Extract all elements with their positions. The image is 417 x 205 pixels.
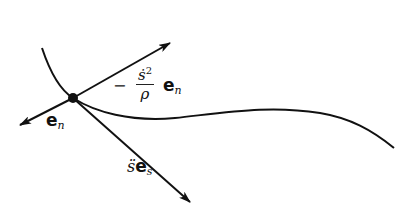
tangential-accel-label: s̈es (127, 156, 152, 176)
fraction-numerator: ṡ2 (138, 63, 152, 83)
unit-normal-label: en (46, 110, 65, 130)
fraction-denominator: ρ (141, 86, 150, 102)
normal-accel-fraction: ṡ2 ρ (136, 63, 154, 102)
normal-accel-vector-symbol: e (163, 75, 175, 95)
curve-path (42, 48, 394, 148)
diagram-svg (0, 0, 417, 205)
unit-normal-subscript: n (58, 119, 65, 132)
normal-accel-vector-subscript: n (175, 84, 182, 97)
tangential-accel-vector-symbol: e (135, 156, 147, 176)
tangential-accel-subscript: s (147, 165, 153, 178)
diagram-canvas: en − ṡ2 ρ en s̈es (0, 0, 417, 205)
particle-point (68, 93, 78, 103)
normal-accel-vector-label: en (163, 75, 182, 95)
minus-sign: − (113, 76, 126, 95)
tangential-accel-scalar: s̈ (127, 157, 135, 176)
unit-normal-symbol: e (46, 110, 58, 130)
tangential-accel-arrow (73, 98, 190, 202)
